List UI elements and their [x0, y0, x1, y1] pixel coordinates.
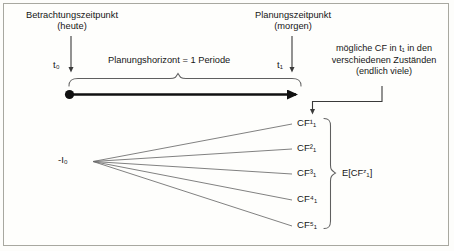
planning-date-title: Planungszeitpunkt (morgen) [234, 10, 352, 32]
planning-horizon-brace [69, 74, 301, 87]
possible-cashflows-note-line1: mögliche CF in t₁ in den [318, 43, 450, 55]
observation-date-subtitle: (heute) [8, 21, 136, 32]
planning-date-title-line: Planungszeitpunkt [234, 10, 352, 21]
cash-flow-label-2: CF²₁ [297, 142, 316, 153]
possible-cashflows-note-line2: verschiedenen Zuständen [318, 55, 450, 67]
diagram-vector-layer [0, 0, 454, 251]
observation-date-title-line: Betrachtungszeitpunkt [8, 10, 136, 21]
side-note-connector [313, 86, 383, 112]
initial-investment-label: -I₀ [58, 154, 68, 165]
timeline-start-dot [65, 90, 74, 99]
cash-flow-label-3: CF³₁ [297, 167, 316, 178]
expected-cashflow-label: E[CFz1] [342, 167, 372, 179]
scenario-line-1 [93, 124, 292, 162]
planning-horizon-label: Planungshorizont = 1 Periode [108, 55, 230, 66]
planning-date-subtitle: (morgen) [234, 21, 352, 32]
scenario-line-3 [93, 162, 292, 175]
cash-flow-label-4: CF⁴₁ [297, 193, 317, 204]
observation-date-title: Betrachtungszeitpunkt (heute) [8, 10, 136, 32]
possible-cashflows-note-line3: (endlich viele) [318, 66, 450, 78]
cash-flow-label-1: CF¹₁ [297, 117, 316, 128]
diagram-canvas: Betrachtungszeitpunkt (heute) Planungsze… [0, 0, 454, 251]
time-label-t1: t₁ [277, 59, 283, 70]
expected-cashflow-base: E[CF [342, 168, 363, 178]
cash-flow-brace [324, 119, 336, 229]
expected-cashflow-close: ] [370, 168, 373, 178]
time-label-t0: t₀ [53, 59, 60, 70]
cash-flow-label-5: CF⁵₁ [297, 219, 317, 230]
scenario-line-2 [93, 149, 292, 162]
scenario-line-4 [93, 162, 292, 201]
possible-cashflows-note: mögliche CF in t₁ in den verschiedenen Z… [318, 43, 450, 78]
scenario-fan [93, 124, 292, 226]
scenario-line-5 [93, 162, 292, 227]
